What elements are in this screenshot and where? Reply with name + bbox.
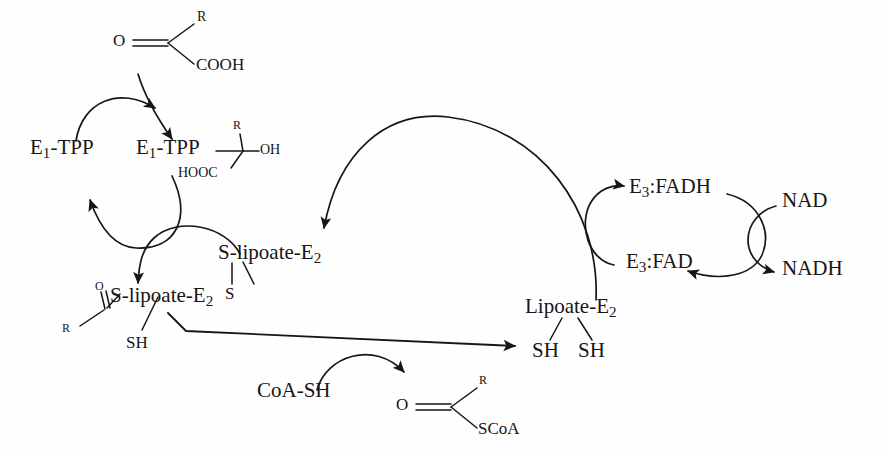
acyl-lipoate-main: S-lipoate-E — [110, 283, 206, 307]
nadh-label: NADH — [782, 258, 843, 279]
e3-fad-main: E — [626, 249, 639, 273]
substrate-bond-cooh — [168, 43, 194, 64]
dihydrolipoate-thiol-right-label: SH — [578, 340, 605, 361]
lipoate-disulfide-main: S-lipoate-E — [218, 240, 314, 264]
lipoate-disulfide-subscript: 2 — [314, 250, 322, 266]
acyl-co-double-a — [101, 292, 105, 309]
substrate-r-label: R — [197, 10, 206, 24]
acyl-lipoate-label: S-lipoate-E2 — [110, 285, 213, 309]
hydroxyalkyl-hydroxyl-label: OH — [260, 143, 280, 157]
acylcoa-r-label: R — [479, 374, 487, 386]
lipoate-disulfide-label: S-lipoate-E2 — [218, 242, 321, 266]
e3-fad-label: E3:FAD — [626, 251, 693, 275]
coash-label: CoA-SH — [257, 380, 331, 401]
e1-tpp-free-main: E — [30, 135, 43, 159]
e1-tpp-bound-label: E1-TPP — [136, 137, 200, 161]
hydroxyalkyl-bond-hooc — [231, 151, 243, 168]
e3-fadh-rest: :FADH — [649, 174, 710, 198]
arrow-acyl-transfer — [168, 313, 515, 346]
acylcoa-oxygen-label: O — [396, 396, 408, 413]
dihydrolipoate-subscript: 2 — [609, 304, 617, 320]
pathway-diagram-canvas: O R COOH E1-TPP E1-TPP R OH HOOC S-lipoa… — [0, 0, 883, 454]
dihydro-bond-sh-left — [550, 318, 562, 340]
substrate-oxygen-label: O — [113, 32, 125, 49]
diagram-strokes-layer — [0, 0, 883, 454]
arrow-substrate-to-e1 — [138, 74, 172, 139]
arrow-fad-to-fadh — [585, 186, 624, 265]
acyl-lipoate-r-label: R — [62, 322, 70, 334]
acyl-lipoate-thiol-label: SH — [126, 334, 148, 351]
acyl-lipoate-oxygen-label: O — [95, 280, 104, 292]
e1-tpp-free-label: E1-TPP — [30, 137, 94, 161]
e1-tpp-bound-main: E — [136, 135, 149, 159]
nad-label: NAD — [782, 190, 828, 211]
arrow-nad-to-nadh — [748, 206, 776, 272]
arrow-dihydro-to-lipoate — [324, 116, 596, 300]
lipoate-disulfide-sulfur-label: S — [225, 285, 234, 302]
e3-fad-rest: :FAD — [646, 249, 692, 273]
arrow-fadh-to-fad — [688, 194, 765, 276]
dihydrolipoate-thiol-left-label: SH — [532, 340, 559, 361]
acyl-bond-r — [80, 310, 104, 326]
acylcoa-bond-scoa — [451, 407, 477, 428]
e3-fadh-main: E — [629, 174, 642, 198]
hydroxyalkyl-bond-r — [240, 134, 243, 151]
hydroxyalkyl-carboxyl-label: HOOC — [178, 166, 218, 180]
e1-tpp-bound-rest: -TPP — [156, 135, 199, 159]
hydroxyalkyl-bonds-layer — [0, 0, 883, 454]
dihydro-bond-sh-right — [578, 318, 592, 340]
hydroxyalkyl-r-label: R — [233, 119, 241, 131]
substrate-carboxyl-label: COOH — [196, 56, 244, 73]
acylcoa-thioester-label: SCoA — [478, 420, 520, 437]
e3-fadh-label: E3:FADH — [629, 176, 711, 200]
dihydrolipoate-main: Lipoate-E — [525, 294, 609, 318]
acylcoa-bond-r — [451, 388, 477, 407]
arrow-e1-regen-lower — [90, 176, 181, 248]
e1-tpp-free-rest: -TPP — [50, 135, 93, 159]
substrate-bond-r — [168, 24, 194, 43]
acyl-lipoate-subscript: 2 — [206, 293, 214, 309]
dihydrolipoate-label: Lipoate-E2 — [525, 296, 617, 320]
